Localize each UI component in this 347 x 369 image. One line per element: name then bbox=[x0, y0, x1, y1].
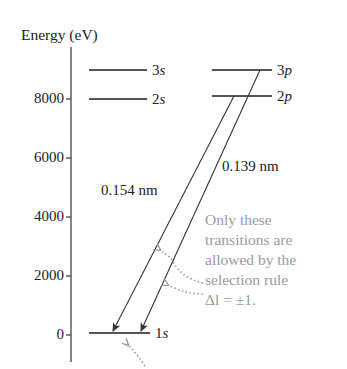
axis-title: Energy (eV) bbox=[21, 27, 98, 43]
level-2s-label: 2s bbox=[152, 91, 165, 107]
energy-level-diagram bbox=[0, 0, 347, 369]
tick-label-0: 0 bbox=[57, 326, 65, 343]
transition-2p-1s-label: 0.154 nm bbox=[101, 182, 158, 198]
level-3s-label: 3s bbox=[152, 62, 165, 78]
annotation-line: Δl = ±1. bbox=[205, 290, 296, 310]
tick-label-2000: 2000 bbox=[34, 267, 64, 284]
level-1s-label: 1s bbox=[155, 325, 168, 341]
tick-label-8000: 8000 bbox=[34, 90, 64, 107]
level-2p-label: 2p bbox=[277, 88, 292, 104]
selection-rule-annotation: Only these transitions are allowed by th… bbox=[205, 210, 296, 310]
annotation-line: selection rule bbox=[205, 270, 296, 290]
pointer-arrow-lower bbox=[168, 285, 203, 294]
annotation-line: Only these bbox=[205, 210, 296, 230]
annotation-line: allowed by the bbox=[205, 250, 296, 270]
pointer-arrow-bottom bbox=[128, 345, 145, 366]
annotation-line: transitions are bbox=[205, 230, 296, 250]
level-3p-label: 3p bbox=[277, 62, 292, 78]
tick-label-4000: 4000 bbox=[34, 208, 64, 225]
tick-label-6000: 6000 bbox=[34, 149, 64, 166]
transition-3p-1s-label: 0.139 nm bbox=[222, 158, 279, 174]
pointer-arrow-upper bbox=[160, 250, 203, 283]
axis-ticks bbox=[66, 99, 71, 335]
